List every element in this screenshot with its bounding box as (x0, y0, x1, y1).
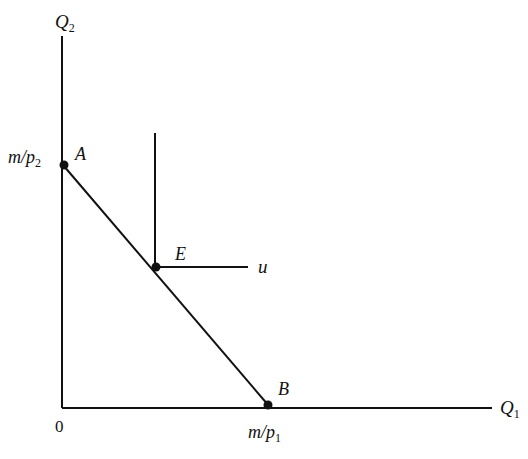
point-a (60, 161, 69, 170)
budget-line (63, 165, 269, 406)
diagram-canvas: Q2 Q1 0 m/p2 m/p1 A B E u (0, 0, 528, 459)
x-intercept-label: m/p1 (248, 422, 281, 445)
y-intercept-label: m/p2 (8, 147, 41, 170)
point-e (152, 263, 161, 272)
point-a-label: A (74, 144, 87, 164)
point-b (264, 401, 273, 410)
origin-label: 0 (55, 417, 64, 436)
y-axis-label: Q2 (55, 11, 75, 35)
point-b-label: B (278, 379, 289, 399)
x-axis-label: Q1 (500, 397, 520, 421)
point-e-label: E (174, 244, 186, 264)
indifference-curve-label: u (258, 256, 268, 277)
